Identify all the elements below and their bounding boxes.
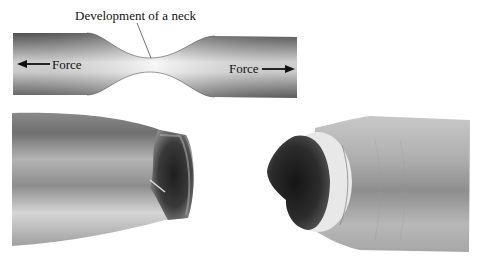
left-force-label: Force — [52, 57, 82, 72]
right-fracture-cone — [267, 135, 330, 230]
right-force-label: Force — [229, 61, 259, 76]
necking-diagram: Development of a neck Force Force — [0, 0, 320, 110]
neck-label: Development of a neck — [75, 8, 196, 23]
fracture-photo-right — [240, 100, 480, 259]
fracture-photo-left — [0, 100, 240, 259]
neck-leader-line — [137, 23, 151, 58]
